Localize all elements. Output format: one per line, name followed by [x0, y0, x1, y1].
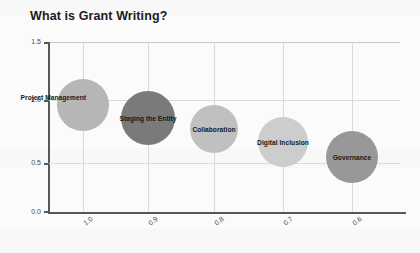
x-tick-label: 0.6	[351, 215, 363, 227]
y-tick-mark	[44, 163, 49, 165]
y-tick-mark	[44, 42, 49, 44]
top-axis-line	[48, 42, 400, 43]
y-tick-label: 0.0	[31, 208, 41, 215]
x-axis-tick-labels: 1.0 0.9 0.8 0.7 0.6	[48, 212, 408, 252]
chart-canvas: What is Grant Writing? 1.5 1.0 0.5 0.0 P…	[0, 0, 420, 253]
bubble-point[interactable]	[57, 79, 109, 131]
x-tick-label: 0.7	[282, 215, 294, 227]
y-axis-tick-labels: 1.5 1.0 0.5 0.0	[0, 42, 41, 212]
y-axis-line	[48, 42, 50, 212]
page-title: What is Grant Writing?	[30, 9, 167, 23]
y-tick-label: 0.5	[31, 159, 41, 166]
bubble-label: Digital Inclusion	[257, 139, 309, 146]
x-tick-label: 0.8	[213, 215, 225, 227]
bubble-label: Project Management	[21, 94, 86, 101]
bubble-label: Collaboration	[192, 126, 235, 133]
plot-area: Project Management Staging the Entity Co…	[48, 42, 400, 212]
x-tick-label: 0.9	[147, 215, 159, 227]
x-tick-label: 1.0	[82, 215, 94, 227]
gridline-vertical	[352, 42, 353, 212]
bubble-label: Governance	[333, 154, 372, 161]
y-tick-label: 1.5	[31, 38, 41, 45]
bubble-label: Staging the Entity	[120, 115, 177, 122]
